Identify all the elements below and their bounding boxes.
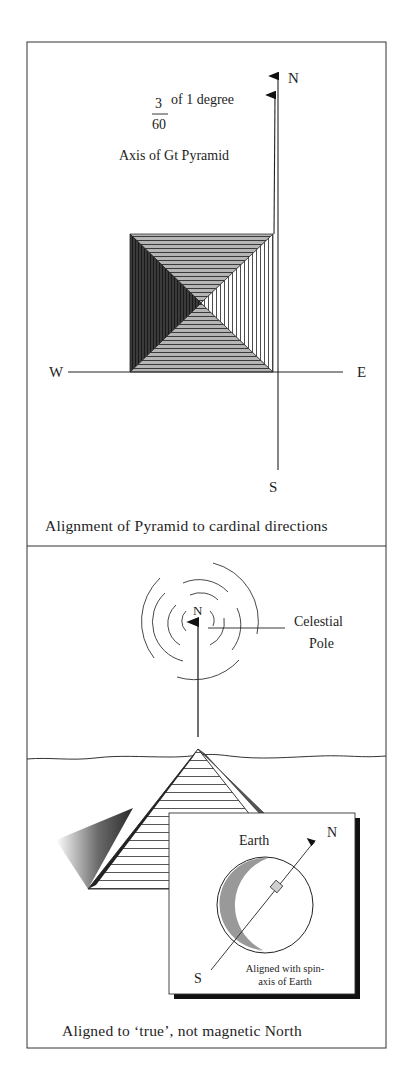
earth-note-line-2: axis of Earth — [230, 975, 340, 988]
earth-north-label: N — [327, 826, 337, 840]
celestial-pole-label-1: Celestial — [294, 615, 343, 629]
compass-north-label: N — [288, 71, 299, 86]
earth-note: Aligned with spin- axis of Earth — [230, 962, 340, 988]
compass-south-label: S — [269, 480, 277, 495]
fraction-suffix: of 1 degree — [171, 93, 234, 107]
earth-south-label: S — [194, 972, 202, 986]
pyramid-axis — [274, 95, 275, 234]
axis-label: Axis of Gt Pyramid — [119, 149, 229, 163]
bottom-caption: Aligned to ‘true’, not magnetic North — [62, 1023, 302, 1039]
earth-note-line-1: Aligned with spin- — [230, 962, 340, 975]
celestial-pole-label-2: Pole — [309, 637, 334, 651]
top-caption: Alignment of Pyramid to cardinal directi… — [45, 518, 328, 534]
compass-west-label: W — [49, 365, 63, 380]
celestial-pole-rings — [141, 563, 258, 680]
earth-title: Earth — [239, 834, 269, 848]
fraction-numerator: 3 — [155, 97, 162, 111]
pole-north-label: N — [193, 604, 202, 617]
pyramid-plan-view — [130, 234, 273, 372]
fraction-denominator: 60 — [152, 118, 166, 132]
compass-east-label: E — [357, 365, 366, 380]
